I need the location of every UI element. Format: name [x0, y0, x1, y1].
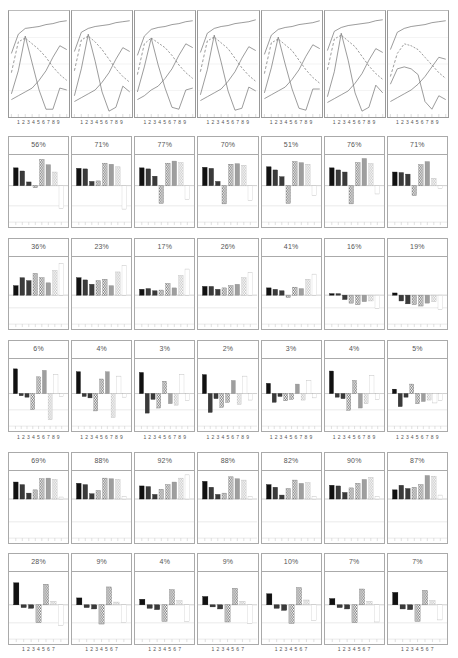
bar-panel-frame: 4%	[134, 553, 195, 645]
bar	[52, 172, 57, 186]
bar-panel-frame: 70%	[197, 136, 258, 228]
panel-header-strip: 7%	[388, 554, 447, 572]
bar-panel-frame: 17%	[134, 238, 195, 330]
bar	[210, 605, 215, 607]
bar-plot-area	[388, 154, 447, 227]
bar	[122, 265, 127, 295]
panel-header-strip: 70%	[198, 137, 257, 155]
bar-panel: 90%	[324, 452, 387, 544]
bar	[82, 394, 86, 397]
bar	[90, 284, 95, 295]
bar-panel-frame: 16%	[324, 238, 385, 330]
bar	[203, 481, 208, 499]
bar	[399, 485, 404, 499]
bar	[20, 278, 25, 295]
bar	[279, 177, 284, 186]
bar	[437, 605, 442, 620]
bar	[84, 605, 89, 608]
panel-percent-label: 71%	[388, 140, 447, 150]
panel-header-strip: 69%	[9, 453, 68, 471]
bar	[203, 375, 207, 394]
line-series	[327, 33, 382, 111]
panel-percent-label: 3%	[262, 344, 321, 354]
panel-header-strip: 92%	[135, 453, 194, 471]
bar	[362, 295, 367, 302]
panel-header-strip: 16%	[325, 239, 384, 257]
bar	[286, 186, 291, 204]
panel-header-strip: 3%	[135, 341, 194, 359]
bar	[105, 372, 109, 394]
bar	[273, 487, 278, 499]
axis-tick-labels: 1 2 3 4 5 6 7	[8, 646, 69, 652]
bar	[52, 479, 57, 499]
bar-plot-area	[388, 470, 447, 543]
bar	[418, 485, 423, 499]
bar	[185, 186, 190, 200]
bar	[266, 288, 271, 295]
panel-percent-label: 16%	[325, 242, 384, 252]
bar	[370, 375, 374, 393]
bar-panel: 76%	[324, 136, 387, 228]
bar	[368, 477, 373, 499]
bar	[99, 605, 104, 624]
bar	[425, 162, 430, 186]
bar-panel: 82%	[261, 452, 324, 544]
bar-plot-area	[9, 571, 68, 644]
bar-panel: 2%	[197, 340, 260, 432]
bar	[243, 376, 247, 393]
axis-tick-row-6: 1 2 3 4 5 6 71 2 3 4 5 6 71 2 3 4 5 6 71…	[8, 646, 450, 652]
bar-panel: 70%	[197, 136, 260, 228]
bar	[329, 485, 334, 499]
bar	[399, 295, 404, 301]
panel-row-lines	[8, 10, 450, 118]
panel-percent-label: 88%	[198, 456, 257, 466]
bar-panel: 92%	[134, 452, 197, 544]
axis-tick-labels: 1 2 3 4 5 6 7	[261, 646, 322, 652]
bar-panel-frame: 9%	[197, 553, 258, 645]
panel-percent-label: 92%	[135, 456, 194, 466]
bar	[342, 295, 347, 299]
line-series	[201, 20, 256, 53]
panel-percent-label: 76%	[325, 140, 384, 150]
bar	[273, 289, 278, 295]
bar	[92, 605, 97, 609]
panel-header-strip: 76%	[325, 137, 384, 155]
bar	[121, 605, 126, 623]
line-plot-area	[197, 10, 259, 118]
line-series	[75, 48, 130, 102]
bar-plot-area	[72, 571, 131, 644]
bar	[33, 186, 38, 188]
bar	[248, 496, 253, 499]
bar	[59, 263, 64, 295]
bar-panel-frame: 71%	[387, 136, 448, 228]
bar-panel-frame: 2%	[197, 340, 258, 432]
bar	[404, 394, 408, 398]
bar	[405, 295, 410, 304]
bar	[336, 170, 341, 186]
panel-percent-label: 17%	[135, 242, 194, 252]
bar	[299, 163, 304, 186]
bar	[36, 605, 41, 623]
panel-header-strip: 5%	[388, 341, 447, 359]
bar	[122, 496, 127, 499]
bar	[216, 289, 221, 295]
bar	[292, 480, 297, 499]
line-panel	[71, 10, 134, 118]
bar-plot-area	[388, 358, 447, 431]
bar-panel-frame: 82%	[261, 452, 322, 544]
bar-plot-area	[262, 358, 321, 431]
panel-percent-label: 2%	[198, 344, 257, 354]
panel-header-strip: 82%	[262, 453, 321, 471]
bar	[242, 165, 247, 185]
bar	[116, 479, 121, 499]
bar	[96, 491, 101, 499]
bar	[242, 278, 247, 295]
line-series	[201, 35, 256, 110]
panel-header-strip: 6%	[9, 341, 68, 359]
bar	[266, 594, 271, 605]
bar-panel: 88%	[197, 452, 260, 544]
line-series	[75, 21, 130, 52]
bar	[277, 394, 281, 397]
bar-plot-area	[72, 470, 131, 543]
bar	[114, 602, 119, 605]
